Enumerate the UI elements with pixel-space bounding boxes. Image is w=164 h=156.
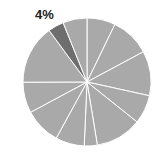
pie-chart: 4% — [0, 0, 164, 156]
slice-percent-label: 4% — [35, 7, 54, 22]
pie-slices — [23, 18, 151, 146]
pie-labels: 4% — [35, 7, 54, 22]
